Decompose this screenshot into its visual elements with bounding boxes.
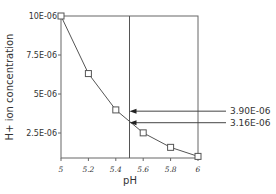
x-tick-label: 5 (59, 165, 64, 174)
x-tick-label: 5.2 (82, 165, 94, 174)
x-tick-label: 5.4 (110, 165, 122, 174)
arrowhead-icon (130, 109, 137, 114)
y-tick-label: 7.5E-06 (26, 51, 57, 60)
chart: 2.5E-065E-067.5E-0610E-0655.25.45.65.863… (0, 0, 276, 194)
x-tick-label: 5.8 (165, 165, 177, 174)
y-tick-label: 10E-06 (29, 12, 57, 21)
data-point-marker (58, 13, 64, 19)
x-tick-label: 6 (196, 165, 201, 174)
data-point-marker (85, 71, 91, 77)
x-axis-label: pH (123, 175, 137, 186)
data-point-marker (140, 130, 146, 136)
y-tick-label: 2.5E-06 (26, 129, 57, 138)
y-tick-label: 5E-06 (34, 90, 57, 99)
y-axis-label: H+ ion concentration (4, 34, 15, 141)
data-point-marker (113, 107, 119, 113)
data-point-marker (168, 144, 174, 150)
annotation-label: 3.16E-06 (230, 118, 271, 128)
x-tick-label: 5.6 (137, 165, 149, 174)
plot-area: 2.5E-065E-067.5E-0610E-0655.25.45.65.863… (26, 12, 271, 174)
data-point-marker (195, 153, 201, 159)
annotation-label: 3.90E-06 (230, 106, 271, 116)
